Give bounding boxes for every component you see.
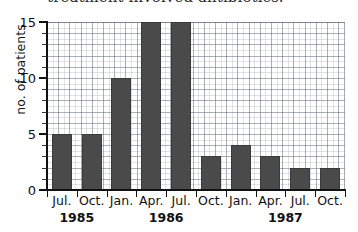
bar — [290, 168, 310, 190]
y-axis-tick-minor — [42, 112, 47, 113]
y-axis-tick-major — [39, 21, 47, 23]
bar-slot — [136, 22, 166, 190]
y-axis-tick-minor — [42, 145, 47, 146]
bar-slot — [315, 22, 345, 190]
x-axis-labels: Jul.Oct.Jan.Apr.Jul.Oct.Jan.Apr.Jul.Oct. — [47, 194, 345, 208]
bar-slot — [107, 22, 137, 190]
x-axis-year-label: 1985 — [47, 211, 107, 225]
x-axis-tick-label: Jul. — [166, 194, 196, 208]
x-axis-tick-label: Jul. — [285, 194, 315, 208]
bar-series — [47, 22, 345, 190]
bar — [201, 156, 221, 190]
x-axis-tick-label: Apr. — [256, 194, 286, 208]
bar-slot — [47, 22, 77, 190]
x-axis-tick-label: Oct. — [77, 194, 107, 208]
x-axis-year-label: 1987 — [255, 211, 315, 225]
bar — [111, 78, 131, 190]
y-axis-tick-minor — [42, 33, 47, 34]
y-axis-tick-minor — [42, 100, 47, 101]
y-axis-tick-label: 0 — [8, 184, 36, 197]
x-axis-tick — [345, 191, 346, 197]
bar — [52, 134, 72, 190]
bar-slot — [226, 22, 256, 190]
bar — [82, 134, 102, 190]
y-axis-line — [46, 21, 48, 191]
x-axis-year-label: 1986 — [136, 211, 196, 225]
x-axis-year-labels: 198519861987 — [47, 211, 345, 227]
x-axis-tick-label: Oct. — [196, 194, 226, 208]
bar — [141, 22, 161, 190]
x-axis-tick-label: Jan. — [107, 194, 137, 208]
y-axis-tick-minor — [42, 89, 47, 90]
y-axis-tick-label: 5 — [8, 128, 36, 141]
y-axis-tick-minor — [42, 56, 47, 57]
bar — [320, 168, 340, 190]
x-axis-tick-label: Oct. — [315, 194, 345, 208]
y-axis-tick-minor — [42, 179, 47, 180]
bar-slot — [77, 22, 107, 190]
bar-slot — [196, 22, 226, 190]
bar — [231, 145, 251, 190]
x-axis-tick-label: Jan. — [226, 194, 256, 208]
bar-slot — [285, 22, 315, 190]
x-axis-tick-label: Apr. — [136, 194, 166, 208]
y-axis-tick-minor — [42, 123, 47, 124]
y-axis-tick-major — [39, 133, 47, 135]
bar — [171, 22, 191, 190]
bar-chart-figure: 051015 no. of patients Jul.Oct.Jan.Apr.J… — [0, 0, 358, 232]
y-axis-tick-minor — [42, 156, 47, 157]
y-axis-tick-major — [39, 77, 47, 79]
y-axis-tick-minor — [42, 67, 47, 68]
y-axis-tick-minor — [42, 44, 47, 45]
bar — [260, 156, 280, 190]
y-axis-tick-minor — [42, 168, 47, 169]
bar-slot — [166, 22, 196, 190]
x-axis-tick-label: Jul. — [47, 194, 77, 208]
plot-area — [47, 22, 345, 190]
bar-slot — [256, 22, 286, 190]
y-axis-title: no. of patients — [13, 10, 28, 130]
y-axis-tick-major — [39, 189, 47, 191]
